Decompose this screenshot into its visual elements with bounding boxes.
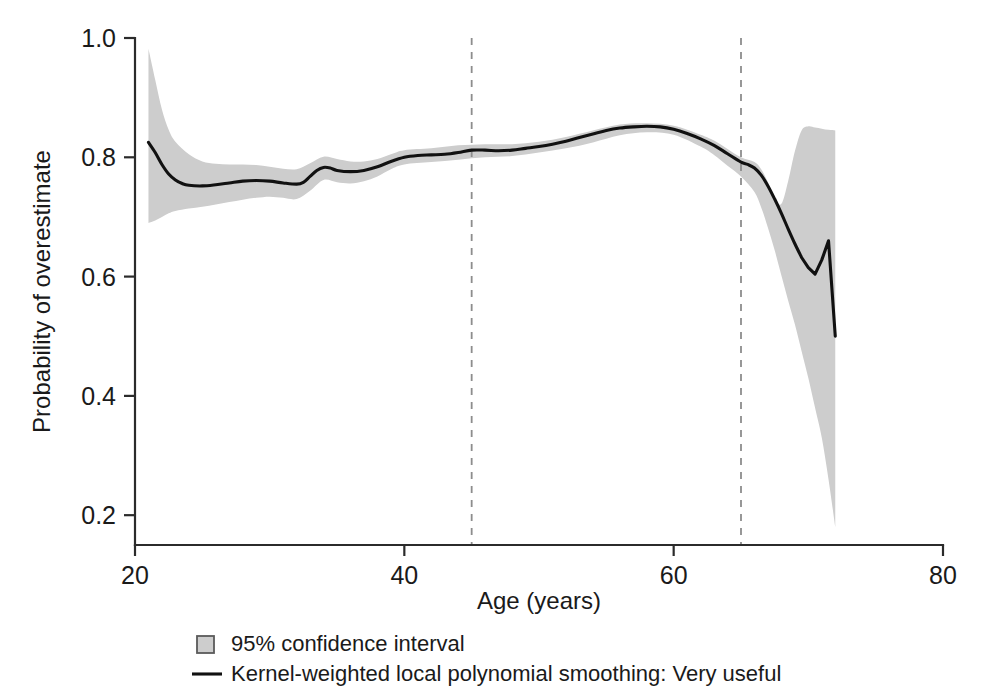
x-tick-label-20: 20	[121, 561, 149, 589]
y-tick-label-0.6: 0.6	[81, 263, 116, 291]
legend-label: Kernel-weighted local polynomial smoothi…	[231, 661, 781, 686]
chart-figure: 0.20.40.60.81.0 Probability of overestim…	[0, 0, 982, 689]
y-tick-label-0.4: 0.4	[81, 382, 116, 410]
y-tick-label-0.8: 0.8	[81, 143, 116, 171]
x-tick-label-60: 60	[660, 561, 688, 589]
y-axis-title: Probability of overestimate	[28, 150, 55, 433]
legend-label: 95% confidence interval	[231, 631, 465, 656]
y-tick-label-1.0: 1.0	[81, 24, 116, 52]
chart-canvas: 0.20.40.60.81.0 Probability of overestim…	[0, 0, 982, 689]
legend-item-confidence-interval: 95% confidence interval	[197, 631, 465, 656]
legend-swatch-square-icon	[197, 636, 214, 653]
x-axis-title: Age (years)	[477, 587, 601, 614]
y-tick-label-0.2: 0.2	[81, 501, 116, 529]
legend-item-fit-line: Kernel-weighted local polynomial smoothi…	[192, 661, 781, 686]
x-tick-label-40: 40	[390, 561, 418, 589]
x-tick-label-80: 80	[929, 561, 957, 589]
